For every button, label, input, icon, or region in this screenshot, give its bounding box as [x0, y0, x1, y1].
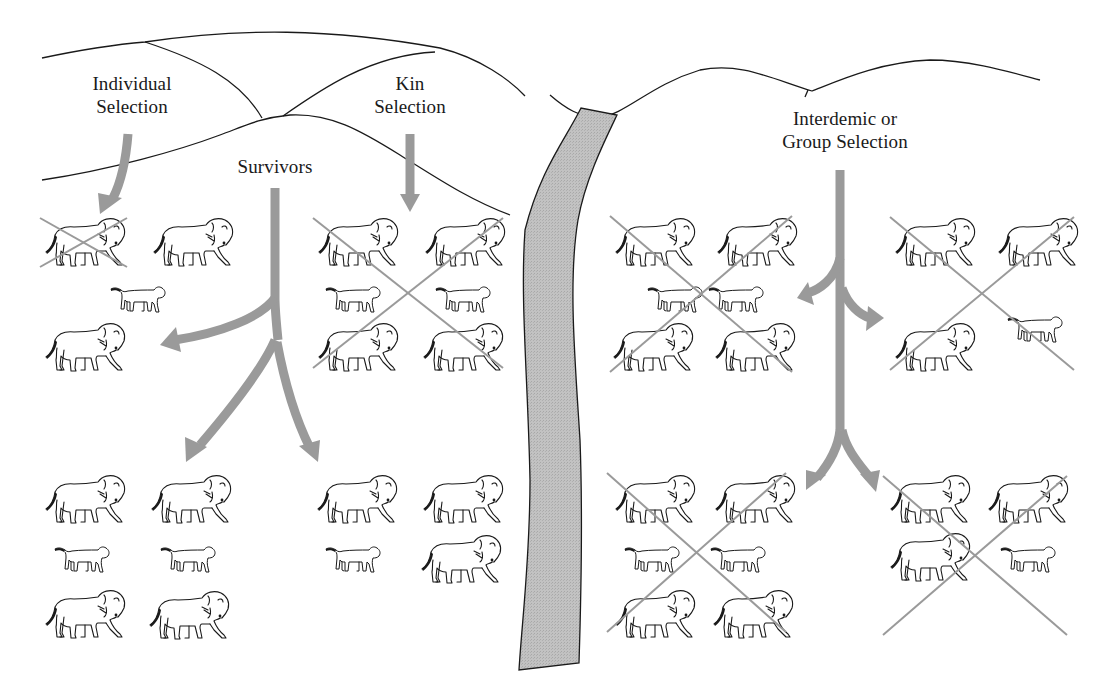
arrowhead-survivors-downright — [299, 440, 320, 462]
adult-lion-icon — [424, 324, 503, 371]
arrow-survivors-downleft — [200, 340, 275, 445]
adult-lion-icon — [422, 536, 501, 583]
adult-lion-icon — [714, 591, 793, 638]
group-cross-mark-h — [883, 476, 1067, 635]
arrow-group-downright — [842, 430, 870, 478]
selection-arrows — [113, 134, 870, 478]
population-group-a — [46, 219, 233, 371]
group-cross-mark-b — [313, 218, 503, 368]
adult-lion-icon — [319, 219, 398, 266]
adult-lion-icon — [896, 324, 975, 371]
arrow-survivors-trunk — [275, 188, 278, 340]
group-cross-mark-e — [610, 216, 792, 372]
adult-lion-icon — [46, 591, 125, 638]
adult-lion-icon — [150, 592, 229, 639]
lion-cub-icon — [326, 287, 380, 312]
population-group-e — [614, 219, 797, 371]
terrain-group-small — [805, 90, 808, 97]
lion-cub-icon — [326, 547, 380, 572]
lion-cub-icon — [161, 547, 215, 572]
adult-lion-icon — [46, 476, 125, 523]
label-group-line2: Group Selection — [740, 130, 950, 153]
adult-lion-icon — [718, 219, 797, 266]
arrow-group-upright — [842, 288, 870, 318]
population-group-c — [46, 476, 231, 639]
lion-cub-icon — [111, 287, 165, 312]
adult-lion-icon — [318, 476, 397, 523]
population-group-d — [318, 476, 503, 583]
label-group-selection: Interdemic or Group Selection — [740, 107, 950, 153]
arrowhead-kin — [400, 194, 420, 212]
arrow-group-downleft — [817, 430, 840, 478]
adult-lion-icon — [152, 476, 231, 523]
lion-cub-icon — [1001, 547, 1055, 572]
adult-lion-icon — [999, 219, 1078, 266]
group-cross-mark-f — [890, 217, 1074, 370]
label-group-line1: Interdemic or — [740, 107, 950, 130]
adult-lion-icon — [424, 476, 503, 523]
river — [519, 108, 617, 670]
population-group-h — [891, 476, 1068, 581]
label-kin-line2: Selection — [350, 95, 470, 118]
selection-diagram: Individual Selection Kin Selection Survi… — [0, 0, 1111, 680]
label-survivors-line1: Survivors — [215, 155, 335, 178]
lion-cub-icon — [436, 287, 490, 312]
population-group-f — [896, 219, 1078, 371]
label-individual-line1: Individual — [62, 72, 202, 95]
adult-lion-icon — [896, 219, 975, 266]
label-individual-selection: Individual Selection — [62, 72, 202, 118]
arrow-survivors-downright — [277, 342, 310, 448]
adult-lion-icon — [616, 219, 695, 266]
population-group-g — [616, 476, 795, 638]
lion-cub-icon — [625, 547, 679, 572]
lion-cub-icon — [711, 547, 765, 572]
adult-lion-icon — [46, 324, 125, 371]
arrowhead-group-upright — [866, 306, 884, 331]
arrow-group-upleft — [808, 258, 840, 293]
adult-lion-icon — [319, 324, 398, 371]
lion-cub-icon — [55, 547, 109, 572]
label-survivors: Survivors — [215, 155, 335, 178]
adult-lion-icon — [614, 324, 693, 371]
label-individual-line2: Selection — [62, 95, 202, 118]
adult-lion-icon — [989, 476, 1068, 523]
label-kin-selection: Kin Selection — [350, 72, 470, 118]
arrowhead-survivors-left — [160, 327, 181, 352]
arrow-survivors-left — [175, 298, 275, 340]
adult-lion-icon — [154, 219, 233, 266]
group-cross-mark-g — [607, 473, 786, 632]
label-kin-line1: Kin — [350, 72, 470, 95]
